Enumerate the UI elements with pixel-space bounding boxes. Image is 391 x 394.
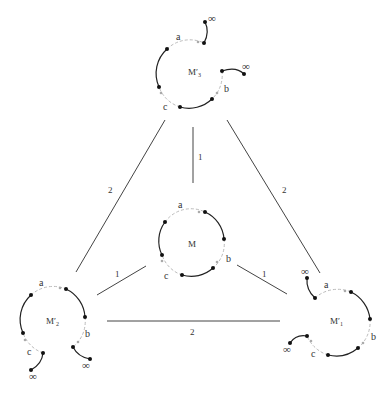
edge-labels: 1 2 2 1 1 2 [108,152,287,337]
point-label-b: b [224,83,229,94]
point-label-b: b [371,331,376,342]
edges [76,120,320,321]
tail-to-infinity [307,278,315,298]
node-right: a b c ∞ ∞ M′1 [283,265,376,359]
arrow-mark [216,92,219,95]
point-label-c: c [164,270,169,281]
dashed-arc-b [213,239,224,268]
infinity-label: ∞ [242,60,250,72]
node-top: a b c ∞ ∞ M′3 [156,12,250,112]
arrow-mark [198,211,201,214]
arrow-mark [161,260,164,263]
solid-arc [66,289,85,317]
arrow-mark [310,340,313,343]
diagram-canvas: 1 2 2 1 1 2 a b c M [0,0,391,394]
edge-weight-top-center: 1 [198,152,203,162]
point-label-c: c [27,346,32,357]
infinity-label: ∞ [29,370,37,382]
solid-arc [205,212,224,239]
tail-to-infinity [73,347,90,359]
point-label-c: c [163,101,168,112]
node-center: a b c M [159,199,231,281]
solid-arc [156,49,167,87]
edge-left-center [97,266,146,295]
point-label-b: b [226,253,231,264]
edge-top-right [227,120,320,273]
node-label: M [188,239,196,249]
edge-top-left [76,120,165,272]
point-label-c: c [311,348,316,359]
point-label-a: a [176,31,181,42]
point-label-a: a [324,279,329,290]
arrow-mark [216,261,219,264]
edge-weight-left-right: 2 [190,327,195,337]
edge-weight-top-right: 2 [282,185,287,195]
infinity-label: ∞ [82,359,90,371]
edge-weight-left-center: 1 [115,269,120,279]
dashed-arc-c [23,333,43,353]
marked-points [157,20,246,109]
solid-arc [20,295,31,333]
solid-arc [159,222,165,255]
arrow-mark [344,290,347,293]
infinity-label: ∞ [301,265,309,277]
dashed-arc-b [212,71,222,99]
arrow-mark [160,92,163,95]
arrow-mark [77,341,80,344]
arrow-mark [59,287,62,290]
point-label-b: b [85,328,90,339]
arrow-mark [362,342,365,345]
node-label: M′2 [46,316,59,327]
point-label-a: a [39,277,44,288]
solid-arc [351,292,370,319]
arrow-mark [197,41,200,44]
edge-weight-top-left: 2 [108,185,113,195]
infinity-label: ∞ [208,12,216,24]
tail-to-infinity [222,69,244,74]
edge-weight-right-center: 1 [262,269,267,279]
infinity-label: ∞ [283,343,291,355]
arrow-mark [24,339,27,342]
solid-arc [180,99,212,108]
node-left: a b c ∞ ∞ M′2 [20,277,92,382]
tail-to-infinity [204,22,207,43]
node-label: M′3 [188,67,201,78]
point-label-a: a [178,199,183,210]
solid-arc [328,348,358,356]
node-label: M′1 [330,316,343,327]
tail-to-infinity [290,336,307,343]
solid-arc [182,268,213,276]
tail-to-infinity [31,353,43,370]
